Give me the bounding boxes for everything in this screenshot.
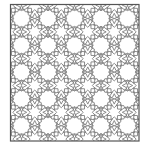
rosette-center-blank (67, 119, 81, 133)
rosette-center-blank (94, 38, 108, 52)
rosette-center-blank (120, 119, 134, 133)
rosette-center-blank (94, 119, 108, 133)
rosette-center-blank (41, 92, 55, 106)
geometric-pattern-figure (0, 0, 145, 147)
rosette-center-blank (94, 65, 108, 79)
rosette-center-blank (120, 92, 134, 106)
rosette-center-blank (67, 11, 81, 25)
rosette-center-blank (41, 11, 55, 25)
rosette-center-blank (120, 11, 134, 25)
rosette-center-blank (41, 119, 55, 133)
star-lattice (0, 0, 145, 147)
rosette-center-blank (120, 38, 134, 52)
rosette-center-blank (67, 38, 81, 52)
rosette-center-blank (14, 119, 28, 133)
rosette-center-blank (94, 92, 108, 106)
rosette-center-blank (41, 38, 55, 52)
rosette-center-blank (41, 65, 55, 79)
rosette-center-blank (14, 92, 28, 106)
rosette-center-blank (14, 65, 28, 79)
rosette-center-blank (67, 92, 81, 106)
rosette-center-blank (14, 38, 28, 52)
rosette-center-blank (120, 65, 134, 79)
rosette-center-blank (94, 11, 108, 25)
rosette-center-blank (14, 11, 28, 25)
rosette-center-blank (67, 65, 81, 79)
star-pattern-svg (0, 0, 145, 147)
